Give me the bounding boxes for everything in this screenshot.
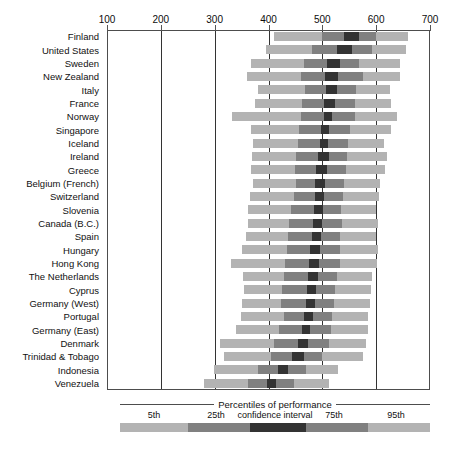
segment-75th-95th [350, 125, 391, 134]
segment-25th-ci [288, 232, 312, 241]
segment-25th-ci [296, 179, 315, 188]
segment-ci-75th [337, 85, 356, 94]
chart-row [107, 217, 430, 230]
segment-75th-95th [335, 285, 371, 294]
chart-row [107, 43, 430, 56]
segment-75th-95th [340, 232, 377, 241]
chart-row [107, 257, 430, 270]
percentile-chart: 100200300400500600700 FinlandUnited Stat… [0, 0, 459, 449]
segment-ci [337, 45, 353, 54]
segment-ci [307, 285, 316, 294]
segment-ci [302, 325, 311, 334]
chart-row [107, 150, 430, 163]
segment-75th-95th [359, 59, 400, 68]
segment-ci-75th [319, 259, 339, 268]
segment-25th-ci [248, 379, 267, 388]
country-label-canada-b-c: Canada (B.C.) [38, 218, 99, 229]
legend-title-row: Percentiles of performance [120, 398, 430, 410]
segment-ci-75th [329, 152, 347, 161]
segment-ci [306, 299, 315, 308]
chart-row [107, 230, 430, 243]
percentile-bar [214, 365, 339, 374]
segment-ci [313, 219, 323, 228]
country-label-the-netherlands: The Netherlands [29, 271, 99, 282]
percentile-bar [248, 219, 378, 228]
segment-75th-95th [340, 259, 377, 268]
segment-75th-95th [344, 179, 380, 188]
segment-5th-25th [243, 272, 284, 281]
legend-segment-5th [120, 423, 188, 432]
country-label-greece: Greece [68, 165, 99, 176]
segment-25th-ci [282, 285, 307, 294]
segment-5th-25th [251, 125, 298, 134]
segment-5th-25th [248, 219, 289, 228]
percentile-bar [220, 339, 366, 348]
segment-ci [315, 179, 325, 188]
segment-75th-95th [329, 339, 367, 348]
segment-ci-75th [324, 192, 343, 201]
segment-ci-75th [359, 32, 376, 41]
segment-25th-ci [281, 299, 306, 308]
segment-25th-ci [302, 99, 324, 108]
legend-segment-ci [250, 423, 306, 432]
percentile-bar [246, 232, 376, 241]
country-label-singapore: Singapore [56, 125, 99, 136]
segment-5th-25th [258, 85, 305, 94]
segment-25th-ci [298, 139, 320, 148]
segment-75th-95th [332, 312, 368, 321]
segment-75th-95th [340, 245, 378, 254]
segment-ci-75th [325, 179, 344, 188]
segment-25th-ci [295, 165, 316, 174]
segment-ci [304, 312, 313, 321]
bars-layer [107, 30, 430, 390]
legend-tick-5th: 5th [148, 410, 161, 421]
segment-75th-95th [294, 379, 328, 388]
percentile-bar [253, 179, 380, 188]
percentile-bar [242, 245, 379, 254]
segment-75th-95th [347, 152, 387, 161]
legend-tick-75th: 75th [325, 410, 343, 421]
segment-ci [278, 365, 288, 374]
segment-5th-25th [266, 45, 312, 54]
percentile-bar [253, 139, 383, 148]
country-label-germany-west: Germany (West) [29, 298, 99, 309]
segment-5th-25th [242, 299, 282, 308]
chart-row [107, 83, 430, 96]
segment-ci-75th [352, 45, 371, 54]
segment-ci-75th [327, 165, 346, 174]
segment-25th-ci [271, 352, 293, 361]
segment-5th-25th [246, 232, 288, 241]
segment-5th-25th [244, 285, 283, 294]
chart-row [107, 310, 430, 323]
segment-ci [309, 259, 319, 268]
segment-ci-75th [313, 312, 332, 321]
chart-row [107, 57, 430, 70]
x-axis-tick-labels: 100200300400500600700 [0, 14, 459, 28]
segment-ci [298, 339, 308, 348]
segment-75th-95th [342, 219, 379, 228]
segment-5th-25th [252, 152, 296, 161]
percentile-bar [204, 379, 329, 388]
country-label-hong-kong: Hong Kong [51, 258, 99, 269]
segment-ci-75th [310, 325, 330, 334]
legend-tick-labels: 5th25thconfidence interval75th95th [120, 410, 430, 422]
country-label-slovenia: Slovenia [63, 205, 99, 216]
country-label-france: France [69, 98, 99, 109]
chart-row [107, 350, 430, 363]
x-axis-tickmark-400 [269, 25, 270, 31]
segment-75th-95th [343, 192, 379, 201]
segment-5th-25th [253, 139, 298, 148]
chart-row [107, 283, 430, 296]
segment-ci-75th [323, 205, 340, 214]
x-axis-tickmark-700 [430, 25, 431, 31]
x-axis-tickmark-200 [161, 25, 162, 31]
legend-gradient-bar [120, 423, 430, 432]
segment-ci-75th [315, 299, 334, 308]
segment-5th-25th [224, 352, 270, 361]
segment-5th-25th [220, 339, 274, 348]
segment-5th-25th [204, 379, 248, 388]
country-label-iceland: Iceland [68, 138, 99, 149]
segment-25th-ci [301, 72, 325, 81]
segment-ci [315, 192, 324, 201]
segment-5th-25th [232, 112, 301, 121]
